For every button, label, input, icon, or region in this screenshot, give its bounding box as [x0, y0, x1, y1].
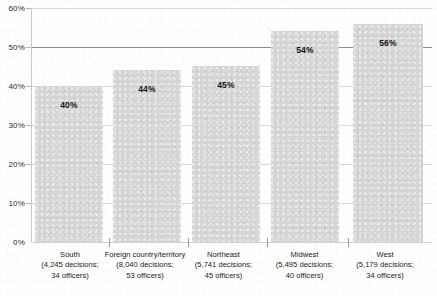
plot-area: 40% 44% 45% 54% 56%	[31, 8, 432, 242]
x-tick-4	[348, 238, 349, 247]
bar-chart: 60% 50% 40% 30% 20% 10% 0% 40% 44% 45% 5…	[0, 0, 437, 296]
y-axis-label-10: 10%	[8, 199, 25, 208]
bar-value-west: 56%	[353, 38, 423, 48]
x-axis-label-west-name: West	[333, 250, 437, 260]
y-axis-label-40: 40%	[8, 82, 25, 91]
y-axis-label-30: 30%	[8, 121, 25, 130]
y-axis-label-50: 50%	[8, 43, 25, 52]
bar-value-foreign-country-territory: 44%	[113, 84, 181, 94]
bar-midwest[interactable]: 54%	[271, 31, 339, 242]
bar-value-south: 40%	[35, 100, 103, 110]
x-tick-3	[267, 238, 268, 247]
y-axis-label-60: 60%	[8, 4, 25, 13]
bar-value-midwest: 54%	[271, 45, 339, 55]
x-axis-label-west: West (5,179 decisions; 34 officers)	[333, 250, 437, 281]
y-axis-label-20: 20%	[8, 160, 25, 169]
x-tick-2	[188, 238, 189, 247]
bar-foreign-country-territory[interactable]: 44%	[113, 70, 181, 242]
bar-northeast[interactable]: 45%	[192, 66, 260, 242]
x-tick-1	[109, 238, 110, 247]
bar-value-northeast: 45%	[192, 80, 260, 90]
x-axis-label-west-decisions: (5,179 decisions;	[333, 260, 437, 270]
bar-south[interactable]: 40%	[35, 86, 103, 242]
y-axis-label-0: 0%	[13, 238, 25, 247]
x-axis-line	[31, 242, 432, 243]
x-axis-label-west-officers: 34 officers)	[333, 271, 437, 281]
bar-west[interactable]: 56%	[353, 24, 423, 242]
